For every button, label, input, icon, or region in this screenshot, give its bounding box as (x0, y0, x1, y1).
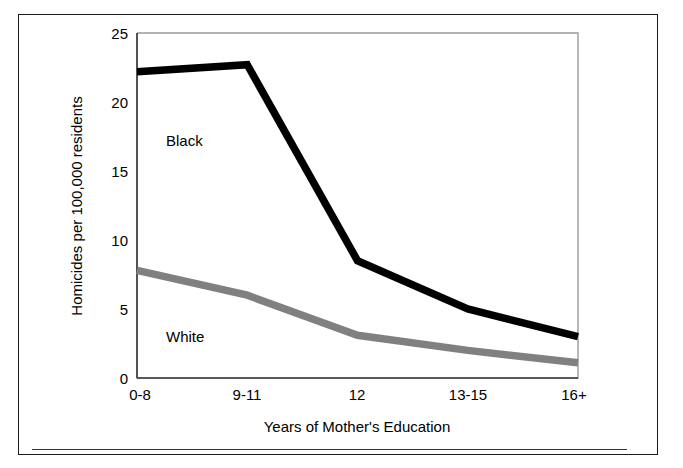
series-label-black: Black (166, 132, 203, 149)
plot-axis-box (137, 33, 578, 378)
x-axis-title: Years of Mother's Education (264, 418, 451, 435)
y-tick-label-10: 10 (100, 233, 128, 248)
y-tick-label-15: 15 (100, 164, 128, 179)
y-tick-label-5: 5 (100, 302, 128, 317)
y-tick-label-20: 20 (100, 95, 128, 110)
y-tick-label-0: 0 (100, 371, 128, 386)
line-chart: 25 20 15 10 5 0 0-8 9-11 12 13-15 16+ Ho… (0, 0, 683, 468)
x-tick-label-9-11: 9-11 (233, 387, 262, 402)
x-tick-label-0-8: 0-8 (129, 387, 151, 402)
series-label-white: White (166, 328, 204, 345)
y-axis-title: Homicides per 100,000 residents (68, 96, 85, 315)
x-tick-label-13-15: 13-15 (449, 387, 487, 402)
y-tick-label-25: 25 (100, 26, 128, 41)
x-tick-label-16plus: 16+ (561, 387, 586, 402)
footer-divider (32, 449, 627, 450)
x-tick-label-12: 12 (349, 387, 366, 402)
series-line-black (137, 65, 578, 337)
